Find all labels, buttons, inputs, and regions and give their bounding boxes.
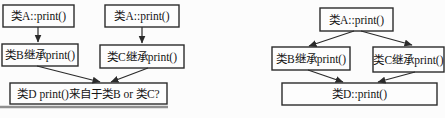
left-node-a1-label: 类A::print() — [11, 9, 66, 23]
right-arrow-c-to-d — [378, 72, 415, 82]
left-node-d-label: 类D print()来自于类B or 类C? — [17, 87, 159, 101]
right-arrow-b-to-d — [308, 70, 343, 82]
right-node-c-label: 类C继承print() — [373, 53, 443, 67]
right-node-d-label: 类D::print() — [332, 87, 387, 101]
right-node-a-label: 类A::print() — [329, 13, 384, 27]
inheritance-diagrams-svg: 类A::print() 类A::print() 类B继承print() 类C继承… — [0, 0, 445, 118]
left-node-a2-label: 类A::print() — [114, 9, 169, 23]
left-node-b-label: 类B继承print() — [5, 48, 75, 62]
right-diagram: 类A::print() 类B继承print() 类C继承print() 类D::… — [272, 8, 444, 105]
left-arrow-c-to-d — [111, 68, 148, 82]
left-diagram: 类A::print() 类A::print() 类B继承print() 类C继承… — [0, 5, 184, 107]
right-arrow-a-to-c — [361, 31, 412, 45]
right-arrow-a-to-b — [309, 31, 354, 46]
diagram-canvas: 类A::print() 类A::print() 类B继承print() 类C继承… — [0, 0, 445, 118]
right-node-b-label: 类B继承print() — [276, 52, 346, 66]
left-node-c-label: 类C继承print() — [107, 50, 177, 64]
left-arrow-b-to-d — [37, 66, 100, 82]
